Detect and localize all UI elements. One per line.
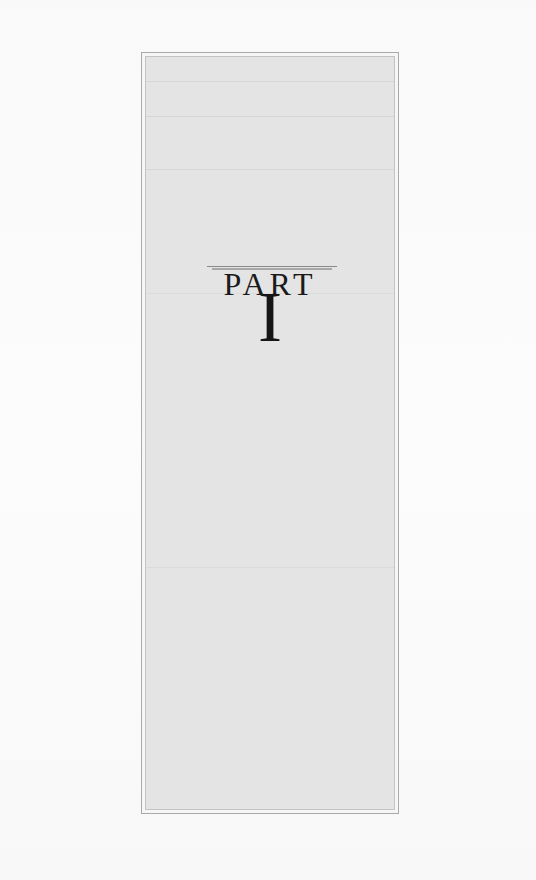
part-number: I [146,281,394,353]
decorative-frame: PART I [141,52,399,814]
bleed-through-line [146,169,394,170]
heading-rule-top [207,266,337,267]
bleed-through-line [146,116,394,117]
page: PART I [0,0,536,880]
heading-rule-bottom [212,268,332,270]
bleed-through-line [146,567,394,568]
shaded-panel: PART I [145,56,395,810]
bleed-through-line [146,81,394,82]
